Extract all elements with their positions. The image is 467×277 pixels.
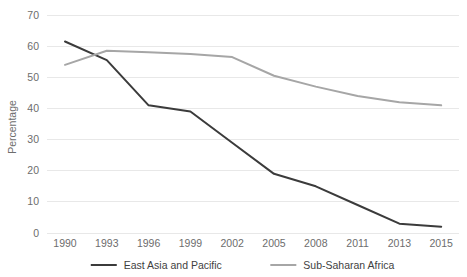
x-tick-label: 2013 xyxy=(388,237,412,249)
y-tick-label: 20 xyxy=(27,164,39,176)
y-tick-label: 10 xyxy=(27,195,39,207)
x-tick-label: 1990 xyxy=(53,237,77,249)
x-tick-label: 2015 xyxy=(430,237,454,249)
x-tick-label: 2005 xyxy=(262,237,286,249)
x-tick-label: 1999 xyxy=(179,237,203,249)
line-chart: 010203040506070 199019931996199920022005… xyxy=(0,0,467,277)
x-tick-label: 2011 xyxy=(346,237,369,249)
x-tick-label: 1996 xyxy=(137,237,161,249)
y-tick-label: 0 xyxy=(33,227,39,239)
y-tick-label: 30 xyxy=(27,133,39,145)
y-axis-title: Percentage xyxy=(6,100,18,154)
y-tick-label: 60 xyxy=(27,40,39,52)
y-tick-label: 70 xyxy=(27,9,39,21)
legend-label-1: East Asia and Pacific xyxy=(124,259,222,271)
chart-canvas: 010203040506070 199019931996199920022005… xyxy=(0,0,467,277)
x-tick-label: 1993 xyxy=(95,237,119,249)
x-tick-label: 2008 xyxy=(304,237,328,249)
y-tick-label: 50 xyxy=(27,71,39,83)
chart-background xyxy=(0,0,467,277)
y-tick-label: 40 xyxy=(27,102,39,114)
legend-label-2: Sub-Saharan Africa xyxy=(303,259,394,271)
x-tick-label: 2002 xyxy=(221,237,245,249)
